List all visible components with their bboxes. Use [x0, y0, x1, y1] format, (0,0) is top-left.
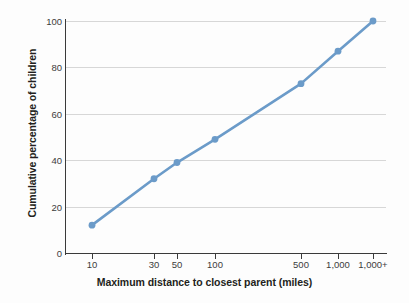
data-point-marker — [335, 48, 342, 55]
data-series-layer — [0, 0, 409, 303]
chart-figure: Cumulative percentage of children 100806… — [0, 0, 409, 303]
series-line — [92, 21, 373, 225]
data-point-marker — [174, 159, 181, 166]
data-point-marker — [212, 136, 219, 143]
data-point-marker — [370, 18, 377, 25]
data-point-marker — [89, 222, 96, 229]
x-axis-title: Maximum distance to closest parent (mile… — [0, 276, 409, 288]
data-point-marker — [298, 80, 305, 87]
data-point-marker — [151, 175, 158, 182]
